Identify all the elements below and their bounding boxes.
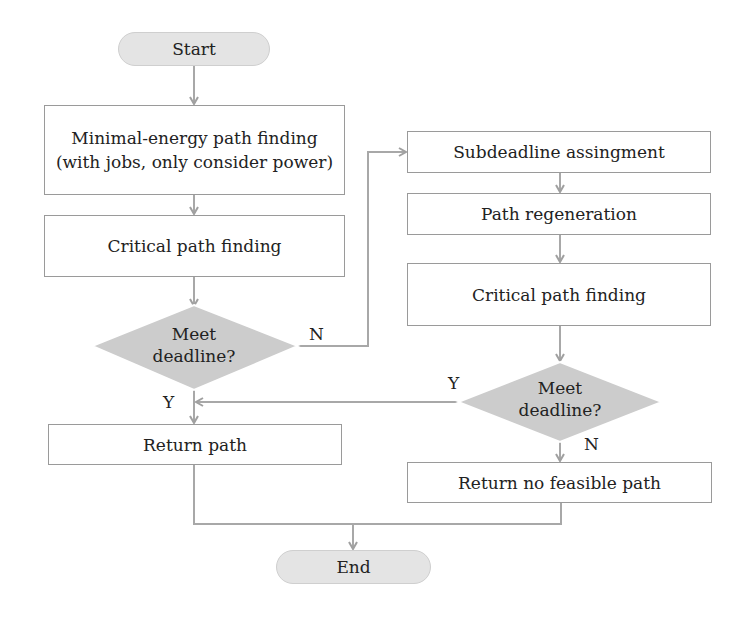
return-path-box: Return path: [48, 424, 342, 465]
subdeadline-label: Subdeadline assingment: [453, 140, 665, 164]
start-terminal: Start: [118, 32, 270, 66]
path-regeneration-box: Path regeneration: [407, 193, 711, 235]
subdeadline-box: Subdeadline assingment: [407, 131, 711, 173]
critical-path-1-label: Critical path finding: [108, 234, 282, 258]
decision-1-text: Meet deadline?: [124, 323, 264, 367]
decision-2-line1: Meet: [490, 377, 630, 399]
path-regeneration-label: Path regeneration: [481, 202, 637, 226]
decision-2-text: Meet deadline?: [490, 377, 630, 421]
return-no-feasible-box: Return no feasible path: [407, 462, 712, 503]
critical-path-2-label: Critical path finding: [472, 283, 646, 307]
start-label: Start: [172, 37, 216, 61]
decision-1-no-label: N: [309, 324, 324, 344]
decision-2-no-label: N: [584, 434, 599, 454]
decision-1-yes-label: Y: [163, 392, 174, 412]
end-label: End: [336, 555, 370, 579]
decision-1-line1: Meet: [124, 323, 264, 345]
end-terminal: End: [276, 550, 431, 584]
min-energy-line1: Minimal-energy path finding: [71, 126, 317, 150]
decision-1-line2: deadline?: [124, 345, 264, 367]
min-energy-path-box: Minimal-energy path finding (with jobs, …: [44, 105, 345, 195]
min-energy-line2: (with jobs, only consider power): [56, 150, 333, 174]
critical-path-box-1: Critical path finding: [44, 215, 345, 277]
critical-path-box-2: Critical path finding: [407, 263, 711, 326]
decision-2-line2: deadline?: [490, 399, 630, 421]
return-path-label: Return path: [143, 433, 247, 457]
return-no-feasible-label: Return no feasible path: [458, 471, 661, 495]
decision-2-yes-label: Y: [448, 373, 459, 393]
